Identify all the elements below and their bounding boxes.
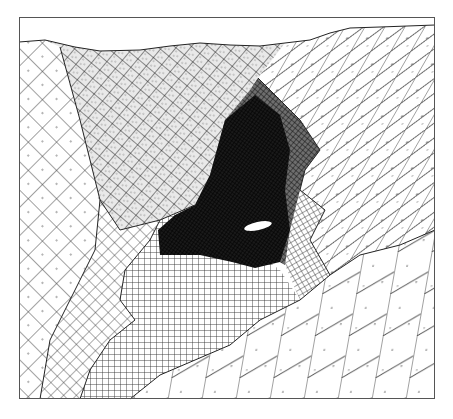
mesh-svg [0, 0, 453, 419]
mesh-diagram [0, 0, 453, 419]
